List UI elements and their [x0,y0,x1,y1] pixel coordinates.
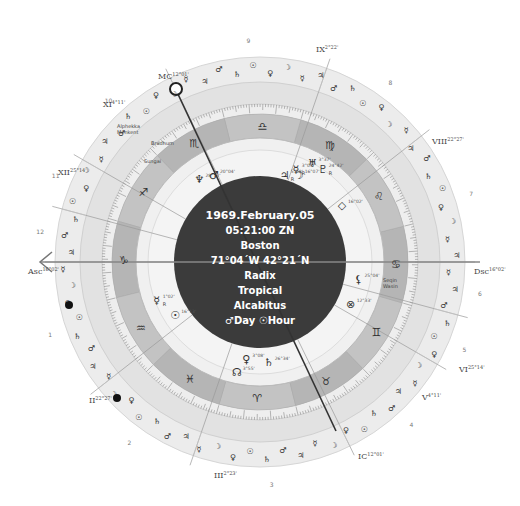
dignity-glyph-icon: ♄︎ [425,172,432,181]
dignity-glyph-icon: ♄︎ [263,455,270,464]
dignity-glyph-icon: ♀︎ [431,350,437,359]
cusp-label-8: VIII22°27' [431,136,464,146]
dignity-glyph-icon: ☉︎ [143,107,150,116]
chart-time: 05:21:00 ZN [226,225,295,236]
dignity-glyph-icon: ♃︎ [183,432,190,441]
dignity-glyph-icon: ♀︎ [230,453,236,462]
dignity-glyph-icon: ♂︎ [61,231,68,240]
dignity-glyph-icon: ♄︎ [370,409,377,418]
part-of-fortune-icon: ◇︎ [338,199,347,212]
ic-label: IC12°01' [358,451,384,461]
dignity-glyph-icon: ☉︎ [250,61,257,70]
sign-sagittarius-icon: ♐︎ [139,186,149,199]
marker-dot-icon [65,301,73,309]
dignity-glyph-icon: ♂︎ [164,432,171,441]
sign-virgo-icon: ♍︎ [325,139,335,152]
house-number: 12 [36,228,44,235]
dignity-glyph-icon: ♄︎ [153,417,160,426]
planet-degree: 1°02' [163,294,175,299]
cusp-label-6: VI25°14' [458,364,485,374]
house-number: 6 [478,290,482,297]
dignity-glyph-icon: ☽︎ [214,442,221,451]
dignity-glyph-icon: ☿︎ [197,445,202,454]
dignity-glyph-icon: ♃︎ [317,71,324,80]
dignity-glyph-icon: ♃︎ [201,77,208,86]
star-bradhum: Bradhum [151,140,174,146]
venus-icon: ♀︎ [242,353,250,366]
chart-day-hour: ♂Day ☉Hour [225,315,295,326]
dignity-glyph-icon: ☉︎ [69,197,76,206]
dsc-label: Dsc16°02' [474,266,506,276]
cusp-label-5: V4°11' [421,392,441,402]
moon-icon: ☽︎ [294,169,304,182]
mercury-icon: ☿︎ [153,294,160,307]
mars-icon: ♂︎ [209,169,219,182]
house-number: 8 [389,79,393,86]
lilith-icon: ⚸︎ [354,273,362,286]
dignity-glyph-icon: ♃︎ [68,248,75,257]
dignity-glyph-icon: ♄︎ [349,84,356,93]
dignity-glyph-icon: ♃︎ [89,362,96,371]
dignity-glyph-icon: ☿︎ [413,379,418,388]
planet-degree: 3°08' [252,353,264,358]
planet-degree: 16°02' [348,199,363,204]
house-number: 3 [270,481,274,488]
dignity-glyph-icon: ♄︎ [233,70,240,79]
cusp-label-3: III2°23' [214,470,237,480]
house-number: 4 [409,421,413,428]
dignity-glyph-icon: ♃︎ [297,451,304,460]
dignity-glyph-icon: ♀︎ [267,69,273,78]
dignity-glyph-icon: ☽︎ [385,120,392,129]
sign-leo-icon: ♌︎ [374,190,384,203]
sign-gemini-icon: ♊︎ [372,326,382,339]
house-number: 5 [462,346,466,353]
dignity-glyph-icon: ♂︎ [215,65,222,74]
marker-dot-icon [113,394,121,402]
dignity-glyph-icon: ♃︎ [395,387,402,396]
dignity-glyph-icon: ☉︎ [361,425,368,434]
dignity-glyph-icon: ☿︎ [99,155,104,164]
chart-date: 1969.February.05 [206,209,315,222]
house-number: 9 [246,37,250,44]
sign-cancer-icon: ♋︎ [391,258,401,271]
asc-label: Asc16°02' [27,266,59,276]
planet-degree: 24°42' [329,163,344,168]
planet-degree: 16°13' [181,309,196,314]
dignity-glyph-icon: ♀︎ [83,184,89,193]
sign-aquarius-icon: ♒︎ [136,322,146,335]
node-icon: ☊︎ [232,366,242,379]
dignity-glyph-icon: ♃︎ [101,137,108,146]
dignity-glyph-icon: ☿︎ [446,268,451,277]
chart-zodiac: Tropical [238,285,282,296]
sign-scorpio-icon: ♏︎ [189,137,199,150]
dignity-glyph-icon: ☿︎ [300,74,305,83]
dignity-glyph-icon: ♄︎ [444,319,451,328]
house-number: 1 [48,331,52,338]
chart-place: Boston [240,240,279,251]
dignity-glyph-icon: ☿︎ [313,439,318,448]
planet-degree: 25°04' [364,273,379,278]
dignity-glyph-icon: ☽︎ [449,217,456,226]
star-wasin: Wasin [383,283,398,289]
dignity-glyph-icon: ♀︎ [153,91,159,100]
dignity-glyph-icon: ♂︎ [330,84,337,93]
chart-coords: 71°04´W 42°21´N [211,255,310,266]
dignity-glyph-icon: ♂︎ [279,446,286,455]
house-number: 2 [128,439,132,446]
sign-libra-icon: ♎︎ [258,120,268,133]
dignity-glyph-icon: ♂︎ [388,404,395,413]
planet-degree: 20°04' [220,169,235,174]
neptune-icon: ♆︎ [195,173,205,186]
dignity-glyph-icon: ☿︎ [61,265,66,274]
chart-type: Radix [244,270,276,281]
sun-icon: ☉︎ [170,309,180,322]
dignity-glyph-icon: ♄︎ [125,112,132,121]
dignity-glyph-icon: ☽︎ [284,63,291,72]
planet-degree: 3°09' [302,163,314,168]
vertex-icon: ⊗︎ [346,298,355,311]
jupiter-icon: ♃︎ [280,169,290,182]
retrograde-flag: R [329,170,333,176]
dignity-glyph-icon: ☉︎ [359,99,366,108]
dignity-glyph-icon: ♀︎ [438,203,444,212]
saturn-icon: ♄︎ [264,356,274,369]
